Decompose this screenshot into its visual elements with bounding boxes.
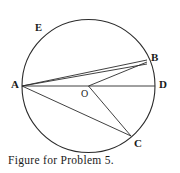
segment-ac (22, 86, 131, 136)
figure-caption: Figure for Problem 5. (8, 154, 178, 166)
segment-ob (89, 62, 148, 86)
segment-ab-lower (22, 64, 147, 86)
geometry-drawing (0, 0, 180, 173)
segment-ab-upper (22, 60, 147, 86)
arc-label-e: E (35, 23, 42, 34)
center-label-o: O (81, 89, 88, 99)
vertex-label-d: D (159, 79, 167, 90)
vertex-label-c: C (134, 138, 142, 149)
vertex-label-a: A (11, 79, 19, 90)
segment-oc (89, 86, 132, 136)
vertex-label-b: B (151, 52, 158, 63)
figure-container: A B C D E O Figure for Problem 5. (0, 0, 180, 173)
